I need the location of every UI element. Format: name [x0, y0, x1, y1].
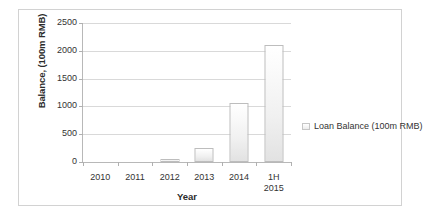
x-tick-mark [222, 162, 223, 166]
bar-slot [83, 23, 118, 162]
x-tick-mark [256, 162, 257, 166]
y-tick-label: 500 [37, 129, 77, 138]
plot-area: 05001000150020002500 2010201120122013201… [83, 23, 291, 162]
chart-legend: Loan Balance (100m RMB) [302, 122, 423, 131]
x-axis-title: Year [83, 191, 291, 202]
x-tick-mark [187, 162, 188, 166]
square-swatch-icon [302, 123, 310, 130]
x-tick-mark [152, 162, 153, 166]
y-tick-label: 2500 [37, 18, 77, 27]
bar-2014[interactable] [229, 103, 248, 162]
bar-slot [118, 23, 153, 162]
bar-1H-2015[interactable] [264, 45, 283, 162]
bar-slot [187, 23, 222, 162]
y-tick-label: 2000 [37, 46, 77, 55]
bar-slot [256, 23, 291, 162]
bar-2013[interactable] [195, 148, 214, 162]
bar-slot [152, 23, 187, 162]
bar-slot [222, 23, 257, 162]
y-tick-label: 1500 [37, 74, 77, 83]
x-tick-mark [291, 162, 292, 166]
x-tick-mark [118, 162, 119, 166]
chart-container: Balance, (100m RMB) 05001000150020002500… [18, 9, 402, 206]
x-tick-mark [83, 162, 84, 166]
legend-item-label: Loan Balance (100m RMB) [314, 122, 423, 131]
y-tick-label: 1000 [37, 101, 77, 110]
bars-series-loan-balance [83, 23, 291, 162]
y-tick-label: 0 [37, 157, 77, 166]
bar-2012[interactable] [160, 159, 179, 162]
